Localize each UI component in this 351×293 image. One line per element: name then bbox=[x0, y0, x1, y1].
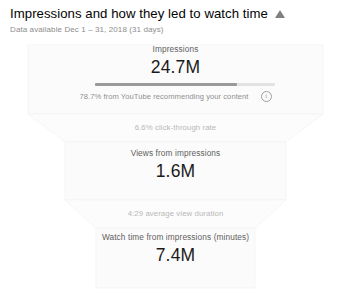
stage-views-value: 1.6M bbox=[0, 160, 351, 182]
info-icon[interactable]: i bbox=[261, 91, 272, 102]
impressions-source-bar-track bbox=[95, 83, 275, 86]
impressions-source-bar-fill bbox=[95, 83, 237, 86]
stage-impressions-value: 24.7M bbox=[0, 56, 351, 78]
transition-click-through-rate: 6.6% click-through rate bbox=[0, 122, 351, 133]
impressions-source-note: 78.7% from YouTube recommending your con… bbox=[0, 91, 351, 102]
stage-watch-time-value: 7.4M bbox=[0, 244, 351, 266]
triangle-up-icon[interactable] bbox=[275, 10, 285, 18]
impressions-source-text: 78.7% from YouTube recommending your con… bbox=[79, 92, 248, 102]
stage-views: Views from impressions 1.6M bbox=[0, 148, 351, 182]
stage-impressions: Impressions 24.7M bbox=[0, 44, 351, 78]
stage-watch-time: Watch time from impressions (minutes) 7.… bbox=[0, 232, 351, 266]
stage-watch-time-label: Watch time from impressions (minutes) bbox=[0, 232, 351, 243]
data-availability-subtitle: Data available Dec 1 – 31, 2018 (31 days… bbox=[10, 24, 341, 35]
page-title: Impressions and how they led to watch ti… bbox=[10, 6, 268, 21]
chart-header: Impressions and how they led to watch ti… bbox=[0, 0, 351, 35]
stage-views-label: Views from impressions bbox=[0, 148, 351, 159]
stage-impressions-label: Impressions bbox=[0, 44, 351, 55]
title-row: Impressions and how they led to watch ti… bbox=[10, 6, 341, 21]
funnel-chart: Impressions 24.7M 78.7% from YouTube rec… bbox=[0, 44, 351, 293]
transition-average-view-duration: 4:29 average view duration bbox=[0, 208, 351, 219]
